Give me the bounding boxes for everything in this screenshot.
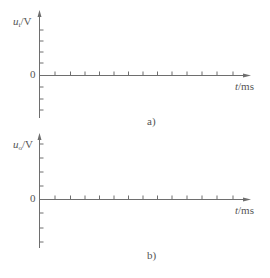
origin-label: 0: [30, 193, 36, 204]
y-axis-ticks: [40, 30, 44, 110]
axes-b: [0, 124, 270, 278]
x-axis-label: t/ms: [235, 81, 254, 92]
x-axis-ticks: [55, 196, 233, 200]
axes-a: [0, 0, 270, 135]
y-axis-arrow-icon: [38, 133, 42, 140]
y-axis-label: uo/V: [13, 139, 33, 154]
y-axis-ticks: [40, 144, 44, 242]
waveform-panel-a: ui/V 0 t/ms a): [0, 0, 270, 135]
waveform-panel-b: uo/V 0 t/ms b): [0, 124, 270, 278]
panel-caption: b): [147, 250, 156, 261]
origin-label: 0: [30, 69, 36, 80]
x-axis-arrow-icon: [243, 74, 251, 78]
x-axis-arrow-icon: [243, 198, 251, 202]
x-axis-ticks: [55, 72, 233, 76]
x-axis-label: t/ms: [235, 205, 254, 216]
y-axis-label: ui/V: [13, 16, 31, 31]
y-axis-arrow-icon: [38, 10, 42, 17]
